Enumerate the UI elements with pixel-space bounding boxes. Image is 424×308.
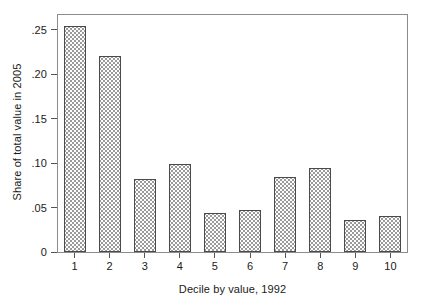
x-tick-label: 4 xyxy=(160,259,200,274)
bar xyxy=(379,216,401,252)
x-tick-label: 9 xyxy=(335,259,375,274)
x-tick-mark xyxy=(214,253,215,258)
y-tick-mark xyxy=(51,207,57,208)
y-tick-label: .15 xyxy=(0,111,47,127)
x-tick-mark xyxy=(250,253,251,258)
y-tick-mark xyxy=(51,118,57,119)
x-tick-label: 6 xyxy=(230,259,270,274)
bar xyxy=(169,164,191,252)
x-tick-label: 3 xyxy=(125,259,165,274)
x-tick-label: 5 xyxy=(195,259,235,274)
x-tick-mark xyxy=(285,253,286,258)
x-tick-mark xyxy=(390,253,391,258)
x-tick-mark xyxy=(74,253,75,258)
y-tick-label: .05 xyxy=(0,200,47,216)
x-tick-label: 7 xyxy=(265,259,305,274)
x-tick-mark xyxy=(179,253,180,258)
bar xyxy=(204,213,226,252)
y-tick-label: 0 xyxy=(0,244,47,260)
x-tick-label: 8 xyxy=(300,259,340,274)
x-tick-label: 10 xyxy=(370,259,410,274)
bar xyxy=(274,177,296,252)
x-axis-title: Decile by value, 1992 xyxy=(57,283,408,295)
bar xyxy=(344,220,366,252)
bar xyxy=(99,56,121,252)
y-tick-label: .25 xyxy=(0,22,47,38)
bar xyxy=(64,26,86,252)
y-tick-label: .10 xyxy=(0,155,47,171)
bar xyxy=(134,179,156,252)
y-tick-label: .20 xyxy=(0,66,47,82)
x-tick-label: 1 xyxy=(55,259,95,274)
bar xyxy=(309,168,331,252)
x-tick-mark xyxy=(355,253,356,258)
y-tick-mark xyxy=(51,163,57,164)
x-tick-mark xyxy=(144,253,145,258)
bar xyxy=(239,210,261,252)
y-axis-title: Share of total value in 2005 xyxy=(8,12,26,252)
y-tick-mark xyxy=(51,29,57,30)
x-tick-label: 2 xyxy=(90,259,130,274)
y-tick-mark xyxy=(51,74,57,75)
x-tick-mark xyxy=(109,253,110,258)
x-tick-mark xyxy=(320,253,321,258)
bar-chart: Share of total value in 2005 .25.20.15.1… xyxy=(0,0,424,308)
